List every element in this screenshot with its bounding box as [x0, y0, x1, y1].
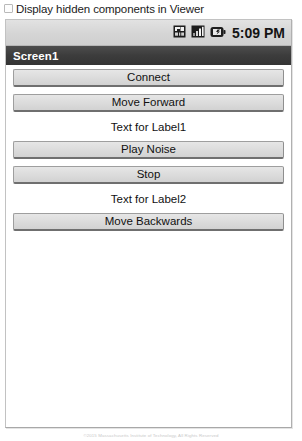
signal-bars-icon — [191, 24, 205, 42]
play-noise-button[interactable]: Play Noise — [13, 141, 284, 159]
connect-button[interactable]: Connect — [13, 69, 284, 87]
stop-button[interactable]: Stop — [13, 166, 284, 184]
screen-title: Screen1 — [13, 50, 58, 62]
label2: Text for Label2 — [13, 191, 284, 207]
display-hidden-components-option[interactable]: Display hidden components in Viewer — [4, 1, 204, 16]
battery-icon — [210, 24, 226, 42]
checkbox-unchecked-icon[interactable] — [4, 4, 13, 13]
phone-preview-frame: 5:09 PM Screen1 Connect Move Forward Tex… — [5, 19, 292, 428]
display-hidden-components-label: Display hidden components in Viewer — [16, 3, 204, 15]
move-backwards-button[interactable]: Move Backwards — [13, 213, 284, 231]
android-status-bar: 5:09 PM — [6, 20, 291, 46]
screen-canvas: Connect Move Forward Text for Label1 Pla… — [6, 65, 291, 426]
status-bar-time: 5:09 PM — [231, 26, 285, 40]
status-bar-icons — [173, 24, 226, 42]
move-forward-button[interactable]: Move Forward — [13, 94, 284, 112]
app-title-bar: Screen1 — [6, 46, 291, 65]
label1: Text for Label1 — [13, 119, 284, 135]
sd-card-icon — [173, 24, 186, 42]
footer-credit: ©2015 Massachusetts Institute of Technol… — [0, 433, 302, 439]
